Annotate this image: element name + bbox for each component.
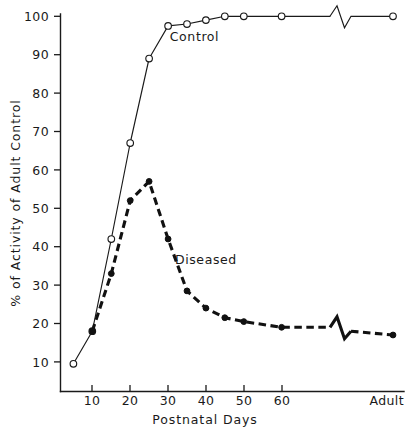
control-point-day50 <box>241 13 248 20</box>
x-tick-label-20: 20 <box>122 393 139 408</box>
diseased-point-day60 <box>279 324 285 330</box>
y-tick-label-60: 60 <box>32 163 49 178</box>
diseased-point-day30 <box>165 236 171 242</box>
y-tick-label-40: 40 <box>32 239 49 254</box>
diseased-point-day35 <box>184 288 190 294</box>
x-tick-label-50: 50 <box>236 393 253 408</box>
diseased-line-segment-adult <box>351 331 393 335</box>
control-point-day25 <box>146 55 153 62</box>
control-point-day15 <box>108 236 115 243</box>
control-point-day5 <box>70 361 77 368</box>
x-axis-tick-labels: 10 20 30 40 50 60 Adult <box>84 393 404 408</box>
diseased-point-day10 <box>89 328 95 334</box>
diseased-series-annotation: Diseased <box>175 252 237 267</box>
control-data-markers <box>70 13 396 367</box>
control-point-day45 <box>222 13 229 20</box>
control-point-adult <box>390 13 397 20</box>
control-point-day35 <box>184 21 191 28</box>
y-tick-label-30: 30 <box>32 278 49 293</box>
diseased-point-day40 <box>203 305 209 311</box>
control-point-day30 <box>165 23 172 30</box>
diseased-point-adult <box>390 332 396 338</box>
diseased-point-day25 <box>146 179 152 185</box>
x-axis-title: Postnatal Days <box>152 412 258 427</box>
series-control <box>70 6 396 367</box>
y-tick-label-100: 100 <box>24 9 49 24</box>
x-axis-ticks <box>92 385 282 392</box>
control-line-segment-main <box>73 16 330 364</box>
axes-group <box>61 14 405 392</box>
diseased-axis-break-zigzag <box>330 317 351 339</box>
y-tick-label-10: 10 <box>32 355 49 370</box>
diseased-point-day50 <box>241 319 247 325</box>
y-tick-label-80: 80 <box>32 86 49 101</box>
y-tick-label-70: 70 <box>32 124 49 139</box>
x-tick-label-adult: Adult <box>369 393 404 408</box>
y-tick-label-50: 50 <box>32 201 49 216</box>
control-point-day60 <box>278 13 285 20</box>
diseased-point-day45 <box>222 315 228 321</box>
control-point-day40 <box>203 17 210 24</box>
diseased-point-day20 <box>127 198 133 204</box>
y-axis-tick-labels: 100 90 80 70 60 50 40 30 20 10 <box>24 9 49 370</box>
diseased-data-markers <box>89 179 396 338</box>
control-series-annotation: Control <box>170 29 219 44</box>
chart-figure: 100 90 80 70 60 50 40 30 20 10 10 20 30 … <box>0 0 413 437</box>
series-diseased <box>89 179 396 339</box>
diseased-point-day15 <box>108 271 114 277</box>
y-axis-title: % of Activity of Adult Control <box>8 99 23 306</box>
x-tick-label-40: 40 <box>198 393 215 408</box>
y-tick-label-20: 20 <box>32 316 49 331</box>
x-tick-label-60: 60 <box>274 393 291 408</box>
y-axis-ticks <box>54 16 61 362</box>
control-axis-break-zigzag <box>330 6 393 28</box>
y-tick-label-90: 90 <box>32 47 49 62</box>
x-tick-label-10: 10 <box>84 393 101 408</box>
control-point-day20 <box>127 140 134 147</box>
line-chart-canvas: 100 90 80 70 60 50 40 30 20 10 10 20 30 … <box>0 0 413 437</box>
x-tick-label-30: 30 <box>160 393 177 408</box>
